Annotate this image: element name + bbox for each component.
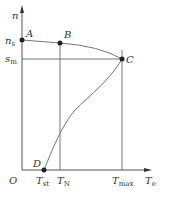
sm-label: sm [5, 53, 17, 66]
point-d [42, 168, 47, 173]
point-c [120, 57, 125, 62]
characteristic-diagram: A B C D n O Te ns sm Tst TN Tmax [0, 0, 169, 197]
x-axis-arrow-icon [144, 168, 152, 172]
characteristic-curve-lower [44, 59, 122, 170]
point-a [20, 38, 25, 43]
characteristic-curve-upper [22, 40, 122, 59]
y-axis-arrow-icon [20, 5, 24, 13]
point-b-label: B [63, 29, 71, 40]
point-c-label: C [126, 54, 134, 65]
origin-label: O [9, 175, 17, 186]
x-axis-label: Te [145, 175, 156, 188]
tmax-label: Tmax [112, 175, 133, 188]
tn-label: TN [57, 175, 70, 188]
tst-label: Tst [36, 175, 49, 188]
point-d-label: D [32, 158, 41, 169]
y-axis-label: n [12, 10, 18, 21]
point-b [58, 41, 63, 46]
point-a-label: A [25, 28, 33, 39]
ns-label: ns [5, 35, 15, 48]
